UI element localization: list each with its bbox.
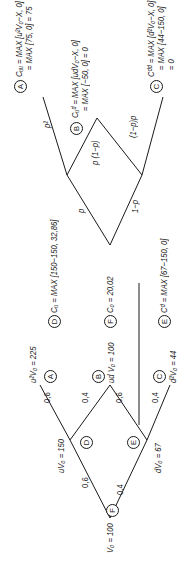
leaf-a-value: u²V₀ = 225 — [28, 346, 38, 383]
leaf-marker-b: B — [92, 370, 105, 383]
r-leaf-b-line1: Cᵤᵈ = MAX [udV₀−X, 0] — [70, 40, 80, 118]
leaf-b-value: ud V₀ = 100 — [106, 343, 116, 383]
r-leaf-b-line2: = MAX [−50, 0] = 0 — [80, 40, 90, 118]
prob-down-down: 0,4 — [150, 392, 160, 403]
edge-r-up-up — [43, 97, 67, 175]
root-value-label: V₀ = 100 — [105, 523, 115, 553]
binomial-option-tree-diagram: V₀ = 100 uV₀ = 150 dV₀ = 67 F D E 0,6 0,… — [0, 0, 193, 573]
r-prob-root-down: 1−p — [130, 200, 140, 213]
prob-down-up: 0,6 — [114, 392, 124, 403]
r-leaf-a-formula: Cᵤᵤ = MAX [u²V₀−X, 0] = MAX [75, 0] = 75 — [14, 1, 34, 77]
r-up-value: Cᵤ = MAX [150−150, 32,86] — [49, 220, 59, 313]
r-leaf-b-formula: Cᵤᵈ = MAX [udV₀−X, 0] = MAX [−50, 0] = 0 — [70, 40, 90, 118]
leaf-c-value: d²V₀ = 44 — [168, 351, 178, 383]
r-prob-root-up: p — [76, 209, 86, 213]
r-prob-up-down: p (1−p) — [90, 141, 100, 165]
r-leaf-c-line2: = MAX [44−150, 0] — [156, 1, 166, 77]
r-prob-down-up: (1−p)p — [128, 116, 138, 138]
r-leaf-marker-c: C — [150, 80, 163, 93]
r-root-value: C₀ = 20,02 — [105, 276, 115, 313]
leaf-marker-c: C — [153, 370, 166, 383]
r-down-value: Cᵈ = MAX [67−150, 0] — [159, 239, 169, 313]
r-up-marker-d: D — [48, 315, 61, 328]
r-prob-up-up: p² — [42, 121, 52, 128]
node-marker-f: F — [106, 504, 119, 517]
edge-r-root-up — [67, 175, 110, 245]
r-root-marker-f: F — [104, 315, 117, 328]
r-leaf-a-line1: Cᵤᵤ = MAX [u²V₀−X, 0] — [14, 1, 24, 77]
r-leaf-marker-b: B — [70, 122, 83, 135]
edge-root-up — [70, 440, 110, 518]
r-leaf-marker-a: A — [14, 80, 27, 93]
node-marker-e: E — [127, 436, 140, 449]
r-leaf-c-formula: Cᵈᵈ = MAX [d²V₀−X, 0] = MAX [44−150, 0] … — [146, 1, 176, 77]
prob-up-down: 0,4 — [80, 392, 90, 403]
prob-up-up: 0,6 — [42, 392, 52, 403]
r-leaf-c-line1: Cᵈᵈ = MAX [d²V₀−X, 0] — [146, 1, 156, 77]
down-node-value-label: dV₀ = 67 — [153, 443, 163, 473]
prob-root-up: 0,6 — [80, 477, 90, 488]
node-marker-d: D — [80, 436, 93, 449]
prob-root-down: 0,4 — [115, 484, 125, 495]
r-leaf-c-line3: = 0 — [166, 1, 176, 77]
edge-up-down — [70, 385, 110, 440]
up-node-value-label: uV₀ = 150 — [56, 439, 66, 473]
r-leaf-a-line2: = MAX [75, 0] = 75 — [24, 1, 34, 77]
leaf-marker-a: A — [44, 370, 57, 383]
edge-r-down-down — [142, 97, 163, 175]
r-down-marker-e: E — [158, 315, 171, 328]
